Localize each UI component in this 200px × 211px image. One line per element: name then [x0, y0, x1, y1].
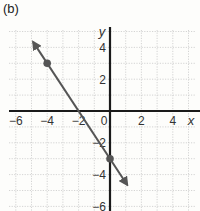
- x-tick-label: 2: [138, 114, 145, 128]
- y-tick-label: 4: [99, 41, 106, 55]
- data-point: [43, 60, 51, 68]
- y-tick-label: −6: [92, 200, 106, 211]
- x-tick-label: 4: [169, 114, 176, 128]
- x-tick-label: 0: [101, 114, 108, 128]
- data-point: [106, 155, 114, 163]
- y-tick-label: 2: [99, 73, 106, 87]
- y-tick-label: −4: [92, 168, 106, 182]
- x-tick-label: −6: [9, 114, 23, 128]
- x-axis-label: x: [187, 113, 195, 128]
- line-chart: −6−4−202442−2−4−6xy: [0, 0, 200, 211]
- x-tick-label: −2: [72, 114, 86, 128]
- x-tick-label: −4: [40, 114, 54, 128]
